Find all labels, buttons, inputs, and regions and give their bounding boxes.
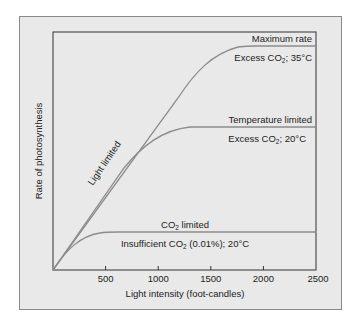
label-temperature-limited: Temperature limited	[229, 114, 312, 125]
curve-co2-limited	[53, 232, 316, 270]
label-light-limited: Light limited	[85, 139, 122, 187]
x-ticks	[106, 266, 264, 270]
label-max-condition: Excess CO2; 35°C	[234, 52, 312, 64]
label-co2-limited: CO2 limited	[161, 219, 209, 231]
x-tick-2000: 2000	[253, 273, 274, 284]
x-axis-title: Light intensity (foot-candles)	[126, 288, 245, 299]
label-co2-condition: Insufficient CO2 (0.01%); 20°C	[121, 238, 249, 250]
x-tick-1000: 1000	[148, 273, 169, 284]
photosynthesis-chart: Maximum rate Excess CO2; 35°C Temperatur…	[0, 0, 360, 326]
x-tick-500: 500	[98, 273, 114, 284]
y-axis-title: Rate of photosynthesis	[33, 102, 44, 199]
label-maximum-rate: Maximum rate	[252, 33, 312, 44]
curves	[53, 46, 316, 270]
curve-maximum-rate	[53, 46, 316, 270]
x-tick-2500: 2500	[307, 273, 328, 284]
x-tick-1500: 1500	[200, 273, 221, 284]
label-temp-condition: Excess CO2; 20°C	[228, 133, 306, 145]
